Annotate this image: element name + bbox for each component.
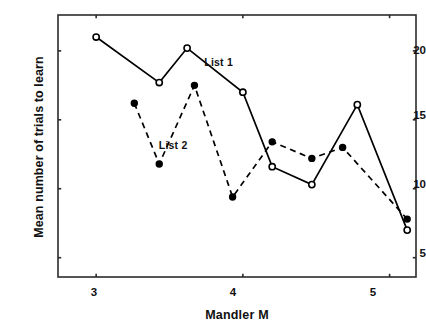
series-lines xyxy=(96,37,407,230)
series-line-1 xyxy=(96,37,407,230)
data-point xyxy=(404,216,410,222)
data-point xyxy=(156,161,162,167)
y-tick-label-20: 20 xyxy=(380,45,426,57)
data-point xyxy=(404,227,410,233)
series-annotation-list-1: List 1 xyxy=(204,56,233,68)
x-axis-label: Mandler M xyxy=(58,308,416,322)
y-axis-label: Mean number of trials to learn xyxy=(26,2,52,292)
series-annotation-list-2: List 2 xyxy=(159,139,188,151)
y-tick-label-10: 10 xyxy=(380,179,426,191)
data-point xyxy=(340,144,346,150)
data-point xyxy=(93,34,99,40)
data-point xyxy=(230,194,236,200)
series-markers xyxy=(93,34,410,233)
data-point xyxy=(269,164,275,170)
data-point xyxy=(156,79,162,85)
x-tick-label-4: 4 xyxy=(213,287,253,299)
data-point xyxy=(269,139,275,145)
x-tick-label-3: 3 xyxy=(74,287,114,299)
data-point xyxy=(309,182,315,188)
axis-ticks xyxy=(58,15,416,277)
data-point xyxy=(191,82,197,88)
data-point xyxy=(309,155,315,161)
data-point xyxy=(131,100,137,106)
data-point xyxy=(240,89,246,95)
y-tick-label-5: 5 xyxy=(380,248,426,260)
y-tick-label-15: 15 xyxy=(380,110,426,122)
x-tick-label-5: 5 xyxy=(353,287,393,299)
plot-frame xyxy=(58,15,416,277)
data-point xyxy=(184,45,190,51)
chart-figure: Mean number of trials to learn 20 15 10 … xyxy=(0,0,426,335)
data-point xyxy=(354,102,360,108)
series-line-2 xyxy=(134,85,407,219)
plot-area xyxy=(0,0,426,335)
